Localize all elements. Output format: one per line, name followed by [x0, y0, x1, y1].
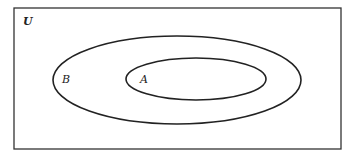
set-a-label: A	[139, 73, 148, 86]
venn-diagram: U B A	[0, 0, 353, 156]
universe-label: U	[23, 15, 34, 28]
set-b-label: B	[61, 73, 70, 86]
